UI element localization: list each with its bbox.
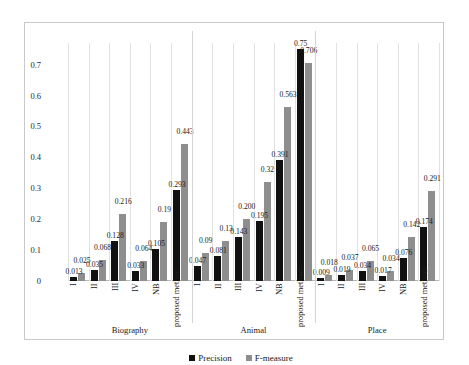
plot-area: 0.0130.0250.0350.0680.1280.2160.0330.064… bbox=[45, 31, 437, 339]
chart-frame: 0.0130.0250.0350.0680.1280.2160.0330.064… bbox=[24, 22, 444, 340]
chart-legend: PrecisionF-measure bbox=[45, 353, 437, 363]
bar-fmeasure bbox=[264, 182, 271, 281]
y-tick-label: 0.7 bbox=[7, 61, 41, 70]
bar-group: 0.1430.200 bbox=[233, 43, 254, 281]
x-tick-label: II bbox=[90, 283, 108, 323]
bar-group: 0.0350.068 bbox=[89, 43, 110, 281]
x-tick-label: III bbox=[111, 283, 129, 323]
x-tick-label: NB bbox=[152, 283, 170, 323]
legend-item[interactable]: F-measure bbox=[246, 353, 293, 363]
bar-group: 0.3910.563 bbox=[274, 43, 295, 281]
bar-group: 0.0760.142 bbox=[398, 43, 419, 281]
x-tick-label: I bbox=[193, 283, 211, 323]
bar-group: 0.750.706 bbox=[295, 43, 316, 281]
legend-label: F-measure bbox=[255, 353, 293, 363]
y-tick-label: 0.4 bbox=[7, 153, 41, 162]
bar-precision bbox=[276, 160, 283, 281]
bar-fmeasure bbox=[119, 214, 126, 281]
bar-group: 0.0190.037 bbox=[336, 43, 357, 281]
bar-group: 0.1950.32 bbox=[254, 43, 275, 281]
bar-precision bbox=[173, 190, 180, 281]
x-tick-label: III bbox=[358, 283, 376, 323]
bar-group: 0.2930.443 bbox=[171, 43, 192, 281]
axes: 0.0130.0250.0350.0680.1280.2160.0330.064… bbox=[68, 43, 439, 281]
bar-value-label: 0.047 bbox=[183, 257, 213, 265]
bar-precision bbox=[379, 276, 386, 281]
bar-fmeasure bbox=[305, 63, 312, 281]
bar-precision bbox=[317, 278, 324, 281]
bar-precision bbox=[132, 271, 139, 281]
bar-value-label: 0.391 bbox=[265, 151, 295, 159]
x-tick-label: proposed method bbox=[420, 283, 438, 327]
bar-precision bbox=[214, 256, 221, 281]
x-tick-label: IV bbox=[131, 283, 149, 323]
legend-swatch-precision bbox=[189, 355, 195, 361]
bar-precision bbox=[359, 271, 366, 282]
bar-value-label: 0.291 bbox=[417, 175, 447, 183]
bar-value-label: 0.143 bbox=[224, 228, 254, 236]
group-label: Biography bbox=[68, 325, 192, 335]
legend-item[interactable]: Precision bbox=[189, 353, 232, 363]
bar-precision bbox=[152, 249, 159, 281]
bar-precision bbox=[235, 237, 242, 281]
bar-value-label: 0.035 bbox=[80, 261, 110, 269]
bar-group: 0.0340.065 bbox=[357, 43, 378, 281]
bar-group: 0.0810.13 bbox=[212, 43, 233, 281]
bar-value-label: 0.076 bbox=[389, 249, 419, 257]
bar-fmeasure bbox=[428, 191, 435, 281]
bar-value-label: 0.017 bbox=[368, 267, 398, 275]
bar-precision bbox=[111, 241, 118, 281]
group-separator bbox=[192, 31, 193, 323]
bar-precision bbox=[91, 270, 98, 281]
bar-group: 0.1740.291 bbox=[418, 43, 439, 281]
group-separator bbox=[315, 31, 316, 323]
x-tick-label: proposed method bbox=[172, 283, 190, 327]
bar-value-label: 0.195 bbox=[245, 212, 275, 220]
group-label: Place bbox=[315, 325, 439, 335]
bar-precision bbox=[194, 266, 201, 281]
x-tick-label: NB bbox=[275, 283, 293, 323]
bar-precision bbox=[256, 221, 263, 281]
bar-value-label: 0.033 bbox=[121, 262, 151, 270]
y-tick-label: 0.1 bbox=[7, 246, 41, 255]
bar-precision bbox=[400, 258, 407, 281]
bar-fmeasure bbox=[160, 222, 167, 281]
bar-value-label: 0.105 bbox=[141, 240, 171, 248]
bar-value-label: 0.174 bbox=[409, 218, 439, 226]
bar-value-label: 0.081 bbox=[203, 247, 233, 255]
x-tick-label: NB bbox=[399, 283, 417, 323]
bar-group: 0.0130.025 bbox=[68, 43, 89, 281]
x-tick-label: I bbox=[69, 283, 87, 323]
x-tick-label: proposed method bbox=[296, 283, 314, 327]
bar-precision bbox=[338, 275, 345, 281]
x-tick-label: II bbox=[337, 283, 355, 323]
x-tick-label: IV bbox=[378, 283, 396, 323]
y-tick-label: 0.6 bbox=[7, 92, 41, 101]
bar-group: 0.0170.034 bbox=[377, 43, 398, 281]
gridline bbox=[439, 43, 440, 281]
y-tick-label: 0 bbox=[7, 277, 41, 286]
group-label: Animal bbox=[192, 325, 316, 335]
y-tick-label: 0.2 bbox=[7, 215, 41, 224]
y-tick-label: 0.3 bbox=[7, 184, 41, 193]
bar-group: 0.1050.19 bbox=[150, 43, 171, 281]
bar-fmeasure bbox=[284, 107, 291, 281]
bar-group: 0.0090.018 bbox=[315, 43, 336, 281]
bar-value-label: 0.128 bbox=[100, 232, 130, 240]
legend-swatch-fmeasure bbox=[246, 355, 252, 361]
bar-precision bbox=[70, 277, 77, 281]
x-tick-label: II bbox=[214, 283, 232, 323]
bar-group: 0.1280.216 bbox=[109, 43, 130, 281]
x-tick-label: IV bbox=[255, 283, 273, 323]
y-tick-label: 0.5 bbox=[7, 122, 41, 131]
bar-precision bbox=[297, 49, 304, 281]
x-tick-label: III bbox=[234, 283, 252, 323]
bar-fmeasure bbox=[408, 237, 415, 281]
x-tick-label: I bbox=[317, 283, 335, 323]
bar-value-label: 0.293 bbox=[162, 181, 192, 189]
legend-label: Precision bbox=[198, 353, 232, 363]
